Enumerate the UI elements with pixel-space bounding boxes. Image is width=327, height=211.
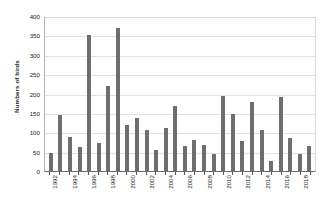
x-label-slot [247,175,257,209]
bar-slot [295,17,305,171]
bar-slot [56,17,66,171]
bar[interactable] [49,153,53,171]
y-axis-tick-label: 100 [30,130,40,136]
x-label-slot [74,175,84,209]
bar-slot [94,17,104,171]
bar[interactable] [78,147,82,171]
plot-area [44,17,316,172]
bar-slot [46,17,56,171]
y-axis-title-text: Numbers of birds [13,60,20,113]
y-axis-tick-label: 350 [30,33,40,39]
bar[interactable] [260,130,264,171]
bar[interactable] [250,102,254,171]
bar[interactable] [116,28,120,171]
x-label-slot: 2006 [180,175,190,209]
bar-slot [65,17,75,171]
x-label-slot [112,175,122,209]
x-label-slot: 2012 [238,175,248,209]
bar-slot [305,17,315,171]
bar-slot [151,17,161,171]
x-label-slot [190,175,200,209]
bar-slot [218,17,228,171]
bar[interactable] [106,86,110,171]
x-label-slot: 2016 [276,175,286,209]
bar[interactable] [212,154,216,171]
x-label-slot [228,175,238,209]
x-label-slot: 1998 [103,175,113,209]
bar-slot [285,17,295,171]
bar-series [45,17,315,171]
y-axis-tick-label: 50 [33,150,40,156]
bar-slot [190,17,200,171]
bar[interactable] [173,106,177,171]
x-label-slot: 1994 [64,175,74,209]
bar-slot [257,17,267,171]
bar[interactable] [154,150,158,171]
y-axis-tick-label: 150 [30,111,40,117]
x-label-slot: 1996 [84,175,94,209]
bar[interactable] [183,146,187,171]
bar-slot [75,17,85,171]
bar-slot [180,17,190,171]
x-label-slot: 2010 [219,175,229,209]
bar-slot [103,17,113,171]
y-axis-tick-label: 400 [30,14,40,20]
bar-slot [113,17,123,171]
bar[interactable] [87,35,91,171]
bar-slot [161,17,171,171]
bar-slot [142,17,152,171]
bar[interactable] [68,137,72,171]
y-axis-tick-label: 300 [30,53,40,59]
x-label-slot [55,175,65,209]
x-label-slot [286,175,296,209]
x-label-slot [209,175,219,209]
bar[interactable] [125,125,129,172]
bar-slot [132,17,142,171]
y-axis-title: Numbers of birds [9,0,23,172]
bar-slot [266,17,276,171]
x-label-slot: 2018 [296,175,306,209]
x-label-slot [267,175,277,209]
bar[interactable] [279,97,283,171]
bar[interactable] [221,96,225,171]
x-label-slot [170,175,180,209]
x-label-slot: 1992 [45,175,55,209]
x-label-slot: 2000 [122,175,132,209]
bar[interactable] [298,154,302,171]
bar-slot [123,17,133,171]
y-axis-tick-label: 200 [30,91,40,97]
bird-numbers-bar-chart: Numbers of birds 40035030025020015010050… [0,0,327,211]
bar-slot [247,17,257,171]
bar[interactable] [269,161,273,171]
x-label-slot: 2002 [141,175,151,209]
x-label-slot: 2004 [161,175,171,209]
bar[interactable] [288,138,292,171]
bar[interactable] [307,146,311,171]
x-label-slot: 2014 [257,175,267,209]
bar[interactable] [145,130,149,171]
bar[interactable] [202,145,206,171]
bar-slot [276,17,286,171]
x-label-slot [151,175,161,209]
bar[interactable] [135,118,139,171]
y-axis-tick-label: 250 [30,72,40,78]
bar-slot [199,17,209,171]
x-label-slot [132,175,142,209]
bar-slot [84,17,94,171]
x-label-slot [305,175,315,209]
x-label-slot [93,175,103,209]
y-axis-tick-label: 0 [37,169,40,175]
bar[interactable] [231,114,235,171]
x-axis-tick-labels: 1992199419961998200020022004200620082010… [44,175,316,209]
bar-slot [238,17,248,171]
bar[interactable] [240,141,244,171]
bar-slot [209,17,219,171]
bar[interactable] [164,128,168,171]
bar[interactable] [97,143,101,171]
bar[interactable] [58,115,62,171]
y-axis-tick-labels: 400350300250200150100500 [22,17,42,172]
bar-slot [171,17,181,171]
bar-slot [228,17,238,171]
x-label-slot: 2008 [199,175,209,209]
bar[interactable] [192,140,196,171]
